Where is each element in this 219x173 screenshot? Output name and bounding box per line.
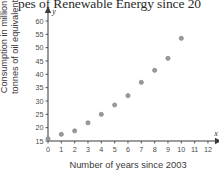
data-point: [179, 36, 183, 40]
y-tick-label: 30: [36, 97, 44, 106]
data-point: [166, 56, 170, 60]
y-tick-label: 60: [36, 17, 44, 26]
y-axis-arrow: [45, 6, 51, 13]
x-tick-label: 0: [46, 145, 50, 154]
data-points: [46, 36, 184, 141]
y-axis: 15202530354045505560: [36, 6, 52, 146]
x-tick-label: 6: [126, 145, 130, 154]
y-tick-label: 55: [36, 30, 44, 39]
y-tick-label: 15: [36, 137, 44, 146]
data-point: [113, 103, 117, 107]
x-axis: 0123456789101112: [46, 138, 219, 154]
x-tick-label: 10: [177, 145, 185, 154]
y-tick-label: 20: [36, 123, 44, 132]
x-tick-label: 7: [139, 145, 143, 154]
y-tick-label: 25: [36, 110, 44, 119]
data-point: [46, 137, 50, 141]
data-point: [126, 94, 130, 98]
x-tick-label: 9: [166, 145, 170, 154]
x-axis-letter: x: [213, 129, 218, 138]
scatter-chart-figure: pes of Renewable Energy since 20 Consump…: [0, 0, 219, 173]
x-tick-label: 12: [204, 145, 212, 154]
plot-area: 15202530354045505560 0123456789101112 xy: [0, 0, 219, 173]
x-axis-arrow: [215, 138, 219, 144]
x-tick-label: 4: [99, 145, 103, 154]
data-point: [73, 129, 77, 133]
y-tick-label: 50: [36, 43, 44, 52]
x-tick-label: 1: [59, 145, 63, 154]
data-point: [86, 121, 90, 125]
data-point: [153, 68, 157, 72]
axis-letters: xy: [51, 7, 218, 138]
y-axis-letter: y: [51, 7, 56, 16]
x-tick-label: 5: [113, 145, 117, 154]
x-tick-label: 8: [153, 145, 157, 154]
y-tick-label: 40: [36, 70, 44, 79]
data-point: [139, 80, 143, 84]
y-tick-label: 45: [36, 57, 44, 66]
y-tick-label: 35: [36, 83, 44, 92]
x-tick-label: 2: [73, 145, 77, 154]
x-tick-label: 11: [191, 145, 198, 154]
data-point: [99, 112, 103, 116]
x-tick-label: 3: [86, 145, 90, 154]
data-point: [59, 132, 63, 136]
